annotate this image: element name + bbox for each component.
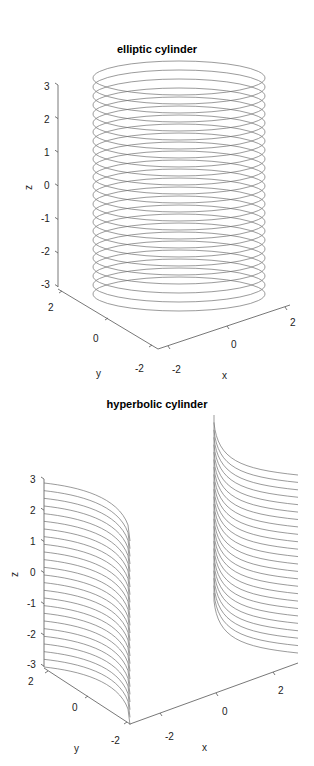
y-tick: 2 — [28, 676, 34, 687]
y-tick-mark — [149, 345, 152, 347]
ellipse-level — [93, 97, 265, 131]
x-tick: -2 — [165, 731, 174, 742]
ellipse-level — [93, 115, 265, 149]
z-tick: -2 — [41, 246, 50, 257]
z-tick-mark — [55, 285, 58, 287]
ellipse-level — [93, 205, 265, 239]
z-tick: 0 — [44, 180, 50, 191]
ellipse-level — [93, 268, 265, 302]
y-tick: 2 — [48, 302, 54, 313]
left-sheet-curve — [44, 498, 130, 556]
y-tick: -2 — [135, 363, 144, 374]
ellipse-level — [93, 106, 265, 140]
z-tick-mark — [41, 602, 44, 604]
ellipse-level — [93, 61, 265, 95]
z-tick-mark — [55, 150, 58, 152]
z-tick: -3 — [27, 659, 36, 670]
ellipse-level — [93, 223, 265, 257]
x-axis-line — [158, 305, 290, 349]
z-tick: -1 — [41, 213, 50, 224]
ellipse-level — [93, 250, 265, 284]
left-sheet-curve — [44, 659, 130, 717]
ellipse-level — [93, 79, 265, 113]
x-tick-mark — [168, 346, 170, 349]
x-tick-mark — [273, 672, 275, 675]
ellipse-level — [93, 133, 265, 167]
left-sheet-curve — [44, 583, 130, 641]
z-axis-label: z — [23, 185, 34, 190]
y-axis-line — [44, 668, 130, 724]
x-axis-label: x — [202, 742, 207, 753]
left-sheet-curve — [44, 567, 130, 625]
y-tick-mark — [85, 696, 88, 698]
y-tick: -2 — [111, 735, 120, 746]
left-sheet-curve — [44, 560, 130, 618]
left-sheet-curve — [44, 506, 130, 564]
left-sheet-curve — [44, 575, 130, 633]
left-sheet-curve — [44, 613, 130, 671]
ellipse-level — [93, 70, 265, 104]
z-tick-mark — [41, 571, 44, 573]
ellipse-level — [93, 232, 265, 266]
hyperbolic-cylinder-canvas — [0, 395, 314, 766]
z-tick-mark — [41, 633, 44, 635]
left-sheet-curve — [44, 590, 130, 648]
z-tick-mark — [55, 217, 58, 219]
z-tick: 3 — [44, 81, 50, 92]
left-sheet-curve — [44, 636, 130, 694]
left-sheet-curve — [44, 491, 130, 549]
ellipse-level — [93, 196, 265, 230]
y-axis-label: y — [96, 368, 101, 379]
z-tick-mark — [55, 83, 58, 85]
x-tick-mark — [227, 326, 229, 329]
x-axis-label: x — [222, 370, 227, 381]
left-sheet-curve — [44, 606, 130, 664]
ellipse-level — [93, 169, 265, 203]
elliptic-cylinder-canvas — [0, 0, 314, 395]
ellipse-level — [93, 178, 265, 212]
z-tick-mark — [41, 539, 44, 541]
x-tick: 0 — [222, 706, 228, 717]
x-tick-mark — [216, 693, 218, 696]
x-tick: -2 — [172, 364, 181, 375]
ellipse-level — [93, 160, 265, 194]
ellipse-level — [93, 142, 265, 176]
z-tick: 1 — [30, 536, 36, 547]
ellipse-level — [93, 214, 265, 248]
ellipse-level — [93, 88, 265, 122]
z-tick: -2 — [27, 629, 36, 640]
x-tick: 0 — [231, 339, 237, 350]
z-tick-mark — [41, 508, 44, 510]
ellipse-level — [93, 241, 265, 275]
y-tick-mark — [59, 291, 62, 293]
elliptic-cylinder-plot: elliptic cylinder 3 2 1 0 -1 -2 -3 z 2 0… — [0, 0, 314, 395]
left-sheet-curve — [44, 644, 130, 702]
y-tick: 0 — [72, 702, 78, 713]
ellipse-level — [93, 259, 265, 293]
y-axis-label: y — [74, 743, 79, 754]
x-tick: 2 — [290, 317, 296, 328]
ellipse-level — [93, 277, 265, 311]
plot-title: hyperbolic cylinder — [0, 398, 314, 410]
z-axis-label: z — [9, 572, 20, 577]
hyperbolic-cylinder-plot: hyperbolic cylinder 3 2 1 0 -1 -2 -3 z 2… — [0, 395, 314, 766]
z-tick: -3 — [41, 279, 50, 290]
z-tick-mark — [55, 117, 58, 119]
ellipse-level — [93, 151, 265, 185]
left-sheet-curve — [44, 598, 130, 656]
left-sheet-curve — [44, 537, 130, 595]
y-tick: 0 — [93, 333, 99, 344]
left-sheet-curve — [44, 629, 130, 687]
plot-title: elliptic cylinder — [0, 43, 314, 55]
y-axis-line — [58, 289, 158, 349]
left-sheet-curve — [44, 514, 130, 572]
z-tick: 0 — [30, 567, 36, 578]
x-tick-mark — [285, 307, 287, 310]
right-sheet-curve — [214, 415, 298, 475]
left-sheet-curve — [44, 544, 130, 602]
left-sheet-curve — [44, 552, 130, 610]
z-tick-mark — [41, 664, 44, 666]
left-sheet-curve — [44, 621, 130, 679]
x-tick: 2 — [278, 685, 284, 696]
left-sheet-curve — [44, 521, 130, 579]
